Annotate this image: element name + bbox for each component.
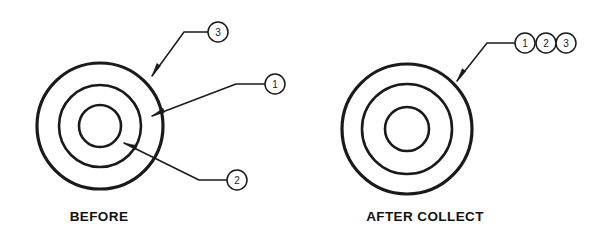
panel-before: 312BEFORE (37, 22, 285, 224)
balloon-label-1: 1 (272, 79, 278, 90)
figure-canvas: 312BEFORE123AFTER COLLECT (0, 0, 605, 239)
leader-line-1 (457, 43, 515, 81)
callout-after-collect-3[interactable]: 3 (556, 33, 576, 53)
balloon-label-2: 2 (543, 38, 549, 49)
leader-arrowhead-2 (124, 143, 137, 150)
balloon-label-3: 3 (215, 27, 221, 38)
after-collect-middle-ring (362, 84, 452, 174)
balloon-label-2: 2 (234, 175, 240, 186)
balloon-label-1: 1 (522, 38, 528, 49)
callout-after-collect-1[interactable]: 1 (457, 33, 535, 81)
callout-after-collect-2[interactable]: 2 (536, 33, 556, 53)
before-outer-ring (37, 63, 163, 189)
leader-arrowhead-3 (152, 63, 160, 76)
ring-diagram: 312BEFORE123AFTER COLLECT (0, 0, 605, 239)
callout-before-3[interactable]: 3 (152, 22, 228, 76)
before-middle-ring (59, 85, 141, 167)
panel-after-collect: 123AFTER COLLECT (342, 33, 576, 224)
callout-before-2[interactable]: 2 (124, 143, 247, 190)
caption-before: BEFORE (70, 209, 129, 224)
leader-line-1 (152, 84, 265, 116)
after-collect-inner-ring (385, 107, 429, 151)
balloon-label-3: 3 (563, 38, 569, 49)
before-inner-ring (79, 105, 121, 147)
callout-before-1[interactable]: 1 (152, 74, 285, 116)
leader-arrowhead-1 (457, 69, 466, 81)
leader-line-3 (152, 32, 208, 76)
caption-after-collect: AFTER COLLECT (366, 209, 484, 224)
